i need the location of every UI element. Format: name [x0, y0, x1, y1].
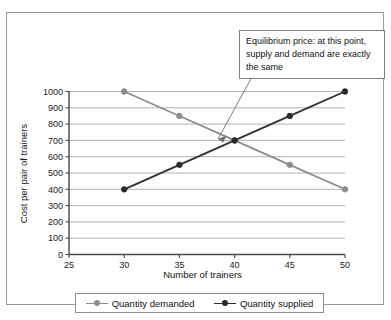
axis-ticks	[66, 92, 346, 259]
y-tick-label: 1000	[43, 87, 63, 97]
tick-labels: 0100200300400500600700800900100025303540…	[43, 87, 350, 270]
data-point-marker	[287, 113, 293, 119]
y-tick-label: 500	[48, 168, 63, 178]
data-point-marker	[287, 162, 293, 168]
legend-swatch-icon	[86, 299, 108, 308]
legend-item-supplied[interactable]: Quantity supplied	[214, 298, 313, 309]
y-tick-label: 300	[48, 201, 63, 211]
chart-figure: 0100200300400500600700800900100025303540…	[6, 12, 384, 305]
gridlines	[69, 92, 345, 239]
legend-swatch-icon	[214, 299, 236, 308]
y-tick-label: 200	[48, 217, 63, 227]
chart-legend: Quantity demanded Quantity supplied	[75, 293, 324, 313]
data-point-marker	[177, 162, 183, 168]
y-tick-label: 700	[48, 136, 63, 146]
y-tick-label: 0	[58, 250, 63, 260]
data-point-marker	[232, 138, 238, 144]
data-point-marker	[177, 113, 183, 119]
data-point-marker	[342, 89, 348, 95]
y-tick-label: 900	[48, 103, 63, 113]
y-tick-label: 600	[48, 152, 63, 162]
x-axis-title: Number of trainers	[7, 269, 391, 280]
legend-label-demanded: Quantity demanded	[112, 298, 195, 309]
data-point-marker	[342, 186, 348, 192]
y-tick-label: 100	[48, 233, 63, 243]
legend-item-demanded[interactable]: Quantity demanded	[86, 298, 195, 309]
legend-label-supplied: Quantity supplied	[240, 298, 313, 309]
y-tick-label: 400	[48, 185, 63, 195]
equilibrium-annotation: Equilibrium price: at this point, supply…	[239, 30, 385, 79]
y-tick-label: 800	[48, 119, 63, 129]
data-point-marker	[121, 89, 127, 95]
y-axis-title: Cost per pair of trainers	[18, 119, 29, 229]
annotation-text: Equilibrium price: at this point, supply…	[246, 36, 371, 72]
data-point-marker	[121, 186, 127, 192]
annotation-leader-line	[218, 75, 253, 143]
